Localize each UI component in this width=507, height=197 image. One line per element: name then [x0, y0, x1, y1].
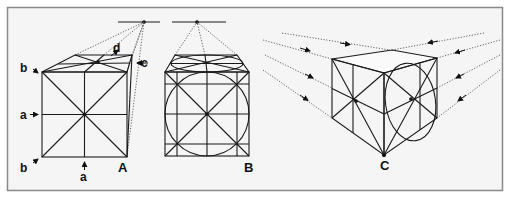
label-B: B [244, 160, 253, 175]
label-a-left: a [20, 108, 27, 122]
label-c: c [141, 56, 148, 70]
label-a-bottom: a [80, 170, 87, 184]
label-b-bottom: b [20, 161, 27, 175]
diagram-frame [8, 8, 503, 191]
label-C: C [380, 158, 390, 173]
label-d: d [113, 41, 120, 55]
label-A: A [118, 160, 128, 175]
perspective-cubes-diagram: d c b a b a A B [0, 0, 507, 197]
label-b-top: b [20, 61, 27, 75]
